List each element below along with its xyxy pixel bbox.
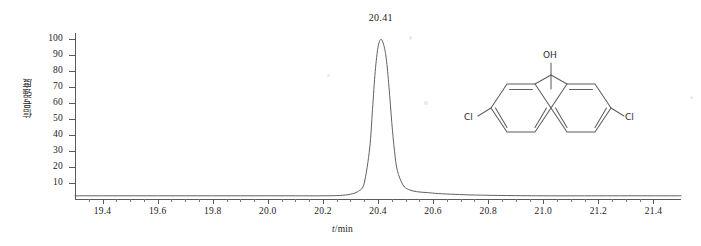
- bond-central-carbon-to-ring-right: [551, 75, 567, 84]
- scan-artifact: [327, 74, 330, 77]
- benzene-ring-left: [491, 84, 551, 132]
- benzene-ring-right: [551, 84, 611, 132]
- scan-artifact: [424, 101, 428, 105]
- scan-artifact: [409, 36, 412, 40]
- chlorine-right-label: Cl: [625, 112, 634, 122]
- scan-artifact: [690, 96, 693, 99]
- hydroxyl-label: OH: [543, 50, 557, 60]
- bond-chlorine-left: [478, 108, 491, 116]
- chemical-structure-diagram: OH Cl Cl: [462, 58, 640, 148]
- bond-chlorine-right: [611, 108, 624, 116]
- chlorine-left-label: Cl: [464, 112, 473, 122]
- chromatogram-figure: 100908070605040302010 19.419.619.820.020…: [0, 0, 701, 246]
- chemical-structure-svg: [462, 58, 640, 148]
- bond-ring-left-to-central-carbon: [535, 75, 551, 84]
